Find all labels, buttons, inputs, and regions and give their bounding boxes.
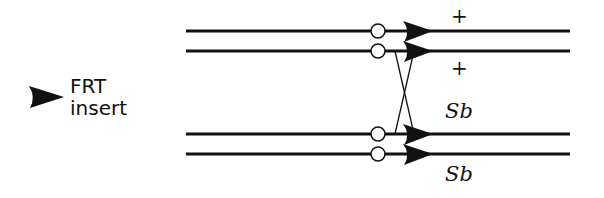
frt-arrowhead-icon	[403, 21, 433, 42]
genotype-label-sb-upper: Sb	[445, 99, 473, 123]
centromere-icon	[371, 147, 385, 161]
legend-line-1: FRT	[70, 75, 127, 97]
frt-arrowhead-icon	[29, 86, 64, 108]
recombination-cross	[395, 51, 414, 134]
frt-arrowhead-icon	[403, 144, 433, 165]
centromere-icon	[371, 24, 385, 38]
frt-arrowheads	[403, 21, 433, 165]
genotype-label-plus-lower: +	[451, 56, 468, 80]
legend-label: FRT insert	[70, 75, 127, 119]
genotype-label-plus-upper: +	[451, 4, 468, 28]
frt-arrowhead-icon	[403, 124, 433, 145]
centromere-circles	[371, 24, 385, 161]
frt-arrowhead-icon	[403, 41, 433, 62]
genotype-label-sb-lower: Sb	[445, 162, 473, 186]
centromere-icon	[371, 44, 385, 58]
legend-line-2: insert	[70, 97, 127, 119]
centromere-icon	[371, 127, 385, 141]
